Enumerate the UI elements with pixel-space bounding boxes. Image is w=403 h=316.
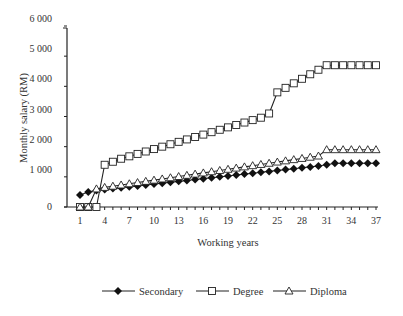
x-tick-label: 7 bbox=[127, 215, 132, 226]
y-tick-label: 4 000 bbox=[30, 73, 53, 84]
y-tick-label: 6 000 bbox=[30, 13, 53, 24]
x-tick-label: 34 bbox=[346, 215, 356, 226]
x-tick-label: 31 bbox=[322, 215, 332, 226]
x-tick-label: 13 bbox=[174, 215, 184, 226]
y-tick-label: 3 000 bbox=[30, 104, 53, 115]
x-tick-label: 37 bbox=[371, 215, 381, 226]
legend-label-degree: Degree bbox=[233, 286, 264, 297]
x-tick-label: 16 bbox=[198, 215, 208, 226]
legend: SecondaryDegreeDiploma bbox=[102, 286, 347, 297]
legend-label-secondary: Secondary bbox=[139, 286, 184, 297]
x-tick-label: 4 bbox=[102, 215, 107, 226]
x-tick-label: 1 bbox=[78, 215, 83, 226]
line-chart: 01 0002 0003 0004 0005 0006 000147101316… bbox=[0, 0, 403, 316]
x-tick-label: 22 bbox=[248, 215, 258, 226]
x-tick-label: 28 bbox=[297, 215, 307, 226]
y-tick-label: 2 000 bbox=[30, 134, 53, 145]
x-tick-label: 25 bbox=[272, 215, 282, 226]
x-axis-title: Working years bbox=[197, 237, 258, 248]
x-tick-label: 10 bbox=[149, 215, 159, 226]
legend-label-diploma: Diploma bbox=[310, 286, 347, 297]
y-tick-label: 5 000 bbox=[30, 43, 53, 54]
x-tick-label: 19 bbox=[223, 215, 233, 226]
y-axis-title: Monthly salary (RM) bbox=[18, 73, 30, 163]
y-tick-label: 0 bbox=[47, 201, 52, 212]
y-tick-label: 1 000 bbox=[30, 164, 53, 175]
